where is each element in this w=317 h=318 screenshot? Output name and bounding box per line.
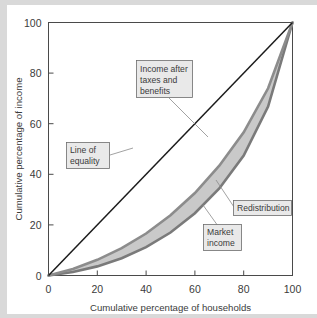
lorenz-curve-chart: 020406080100 020406080100 Cumulative per… [0, 0, 317, 318]
y-tick-label: 60 [30, 118, 42, 130]
callout-text-line-of-equality-line1: Line of [70, 145, 96, 155]
callout-text-redistribution: Redistribution [237, 203, 290, 213]
y-axis-title: Cumulative percentage of income [13, 78, 24, 221]
x-tick-label: 80 [238, 283, 250, 295]
y-tick-label: 40 [30, 168, 42, 180]
x-tick-label: 20 [91, 283, 103, 295]
x-axis-title: Cumulative percentage of households [90, 302, 251, 313]
x-tick-label: 40 [140, 283, 152, 295]
x-tick-label: 0 [46, 283, 52, 295]
y-tick-label: 0 [36, 270, 42, 282]
lorenz-curve-figure: 020406080100 020406080100 Cumulative per… [0, 0, 317, 318]
callout-text-income-after-taxes-line1: Income after [140, 64, 188, 74]
y-tick-label: 20 [30, 219, 42, 231]
x-tick-label: 100 [284, 283, 302, 295]
y-tick-label: 100 [24, 17, 42, 29]
callout-text-line-of-equality-line2: equality [70, 156, 100, 166]
y-tick-label: 80 [30, 67, 42, 79]
callout-text-income-after-taxes-line3: benefits [140, 86, 170, 96]
callout-text-income-after-taxes-line2: taxes and [140, 75, 177, 85]
callout-text-market-income-line1: Market [207, 227, 234, 237]
callout-text-market-income-line2: income [207, 238, 235, 248]
x-tick-label: 60 [189, 283, 201, 295]
